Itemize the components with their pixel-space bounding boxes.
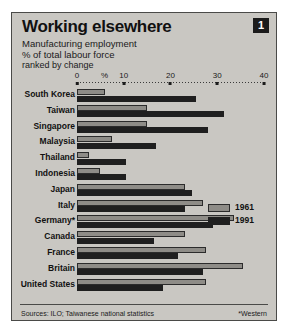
- source-note: Sources: ILO; Taiwanese national statist…: [21, 310, 154, 317]
- bar-1991: [77, 96, 196, 102]
- axis-tick-dot: [122, 82, 125, 85]
- bar-row-label: France: [0, 247, 75, 257]
- bar-1991: [77, 190, 192, 196]
- footnote: *Western: [238, 310, 267, 317]
- bar-pair: [77, 88, 276, 104]
- bar-row-label: Indonesia: [0, 168, 75, 178]
- chart-header: Working elsewhere Manufacturing employme…: [12, 13, 276, 75]
- bar-1961: [77, 231, 185, 237]
- bar-1961: [77, 263, 243, 269]
- bar-pair: [77, 104, 276, 120]
- bar-1991: [77, 253, 178, 259]
- axis-tick-dot: [169, 82, 172, 85]
- bar-1961: [77, 200, 203, 206]
- bar-pair: [77, 167, 276, 183]
- bar-1991: [77, 269, 203, 275]
- axis-tick: 10: [119, 71, 128, 85]
- legend-swatch-icon: [208, 204, 230, 212]
- bar-row-label: Japan: [0, 184, 75, 194]
- bar-row: United States: [12, 278, 276, 294]
- figure-number-badge: 1: [253, 18, 269, 33]
- axis-tick-dot: [216, 82, 219, 85]
- bar-1961: [77, 121, 147, 127]
- chart-plot-area: % 010203040 South KoreaTaiwanSingaporeMa…: [12, 71, 276, 299]
- chart-subtitle-line-3: ranked by change: [22, 60, 94, 70]
- bar-rows: South KoreaTaiwanSingaporeMalaysiaThaila…: [12, 88, 276, 293]
- axis-tick-label: 20: [166, 71, 175, 80]
- bar-row: Malaysia: [12, 135, 276, 151]
- bar-1991: [77, 238, 154, 244]
- chart-subtitle-line-2: % of total labour force: [22, 49, 114, 60]
- bar-row-label: Britain: [0, 263, 75, 273]
- axis-tick: 0: [75, 71, 79, 85]
- bar-row-label: Malaysia: [0, 136, 75, 146]
- axis-tick-dot: [75, 82, 78, 85]
- bar-pair: [77, 278, 276, 294]
- axis-tick-label: 30: [213, 71, 222, 80]
- legend-label: 1961: [235, 202, 254, 212]
- bar-row-label: Germany*: [0, 215, 75, 225]
- bar-1961: [77, 105, 147, 111]
- bar-row: Thailand: [12, 151, 276, 167]
- bar-pair: [77, 151, 276, 167]
- axis-tick-label: 40: [260, 71, 269, 80]
- bar-row: France: [12, 246, 276, 262]
- axis-tick-label: 10: [119, 71, 128, 80]
- bar-row: Taiwan: [12, 104, 276, 120]
- bar-pair: [77, 262, 276, 278]
- axis-tick: 20: [166, 71, 175, 85]
- bar-row: Canada: [12, 230, 276, 246]
- bar-row: Indonesia: [12, 167, 276, 183]
- axis-percent-label: %: [101, 71, 108, 80]
- bar-row: Britain: [12, 262, 276, 278]
- axis-tick-dot: [263, 82, 266, 85]
- footer-divider: [20, 304, 268, 305]
- bar-1961: [77, 89, 105, 95]
- bar-1961: [77, 247, 206, 253]
- bar-row-label: South Korea: [0, 89, 75, 99]
- bar-1991: [77, 159, 126, 165]
- bar-pair: [77, 246, 276, 262]
- bar-1991: [77, 222, 213, 228]
- bar-row-label: Singapore: [0, 121, 75, 131]
- bar-1961: [77, 184, 185, 190]
- legend-item: 1961: [208, 202, 268, 215]
- page-title: Working elsewhere: [22, 17, 172, 37]
- chart-figure: Working elsewhere Manufacturing employme…: [11, 12, 277, 321]
- legend-swatch-icon: [208, 217, 230, 225]
- bar-pair: [77, 230, 276, 246]
- bar-1991: [77, 111, 224, 117]
- bar-row: Singapore: [12, 120, 276, 136]
- axis-tick: 40: [260, 71, 269, 85]
- bar-pair: [77, 135, 276, 151]
- bar-1991: [77, 127, 208, 133]
- bar-row-label: Taiwan: [0, 105, 75, 115]
- bar-row-label: United States: [0, 279, 75, 289]
- bar-1991: [77, 174, 126, 180]
- bar-1961: [77, 136, 112, 142]
- bar-1961: [77, 152, 89, 158]
- chart-legend: 19611991: [208, 202, 268, 228]
- bar-row-label: Thailand: [0, 152, 75, 162]
- chart-subtitle-line-1: Manufacturing employment: [22, 38, 137, 49]
- bar-1961: [77, 168, 100, 174]
- legend-label: 1991: [235, 215, 254, 225]
- legend-item: 1991: [208, 215, 268, 228]
- bar-row: Japan: [12, 183, 276, 199]
- bar-1991: [77, 206, 185, 212]
- bar-pair: [77, 183, 276, 199]
- bar-1961: [77, 279, 206, 285]
- axis-tick: 30: [213, 71, 222, 85]
- bar-pair: [77, 120, 276, 136]
- bar-row-label: Italy: [0, 200, 75, 210]
- bar-1991: [77, 143, 156, 149]
- axis-tick-label: 0: [75, 71, 79, 80]
- bar-1991: [77, 285, 163, 291]
- bar-row: South Korea: [12, 88, 276, 104]
- bar-row-label: Canada: [0, 231, 75, 241]
